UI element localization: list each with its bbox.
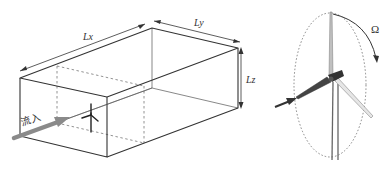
dimension-lz: Lz — [239, 47, 256, 109]
rotor-detail: Ω — [275, 12, 379, 160]
lz-label: Lz — [245, 74, 256, 85]
wind-arrow — [275, 98, 297, 107]
blades — [296, 12, 373, 118]
dimension-ly: Ly — [154, 17, 240, 43]
tower — [332, 82, 338, 160]
inflow-arrow: 流入 — [14, 110, 70, 138]
box-outline — [20, 28, 238, 157]
omega-label: Ω — [371, 23, 379, 35]
ly-label: Ly — [193, 17, 204, 28]
dimension-lx: Lx — [20, 24, 145, 71]
inflow-label: 流入 — [19, 110, 42, 128]
rotor-plane-dashed — [57, 66, 144, 143]
diagram-canvas: Lx Ly Lz 流入 Ω — [0, 0, 389, 172]
lx-label: Lx — [82, 31, 94, 42]
domain-box — [20, 28, 238, 157]
rotation-arrow — [333, 14, 376, 58]
